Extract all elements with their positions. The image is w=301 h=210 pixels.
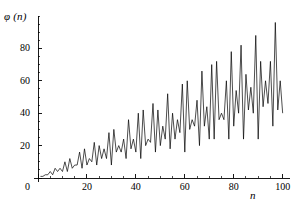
x-axis-title: n	[250, 189, 256, 201]
x-tick-label: 100	[268, 181, 298, 192]
x-tick-label: 80	[219, 181, 249, 192]
y-tick-label: 20	[4, 140, 30, 151]
x-tick-label: 40	[121, 181, 151, 192]
y-tick-label: 0	[4, 181, 30, 192]
y-tick-label: 80	[4, 42, 30, 53]
plot-area	[0, 0, 301, 210]
y-tick-label: 60	[4, 75, 30, 86]
y-axis-title: φ (n)	[4, 10, 27, 22]
x-tick-label: 20	[72, 181, 102, 192]
y-tick-label: 40	[4, 107, 30, 118]
x-tick-label: 60	[170, 181, 200, 192]
totient-function-chart: φ (n) n 204060800 20406080100	[0, 0, 301, 210]
chart-background	[0, 0, 301, 210]
